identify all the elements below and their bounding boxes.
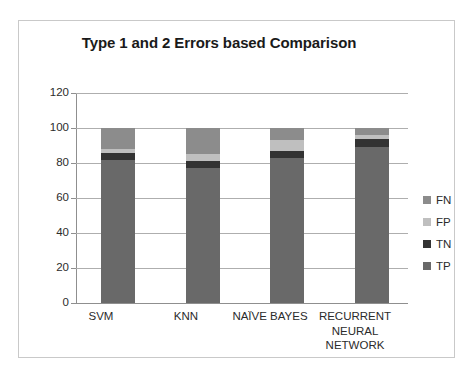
y-axis-tick-label-40: 40 — [25, 227, 69, 238]
bar-segment-tn — [355, 139, 389, 148]
bar-svm[interactable] — [101, 128, 135, 303]
bar-naive-bayes[interactable] — [270, 128, 304, 303]
x-axis-label-line: SVM — [53, 309, 149, 324]
chart-legend: FN FP TN TP — [423, 189, 451, 277]
x-axis-label-line: NAÏVE BAYES — [222, 309, 318, 324]
legend-label: FN — [436, 194, 451, 206]
bar-segment-fn — [101, 128, 135, 149]
legend-swatch-icon — [423, 218, 431, 226]
bar-segment-fn — [270, 128, 304, 140]
legend-item-fn[interactable]: FN — [423, 189, 451, 211]
bar-knn[interactable] — [186, 128, 220, 303]
y-axis-tick-label-120: 120 — [25, 87, 69, 98]
bar-segment-fp — [270, 140, 304, 151]
legend-item-fp[interactable]: FP — [423, 211, 451, 233]
legend-label: TN — [436, 238, 451, 250]
bar-segment-tp — [101, 160, 135, 304]
legend-swatch-icon — [423, 196, 431, 204]
legend-swatch-icon — [423, 262, 431, 270]
y-axis-tick-label-60: 60 — [25, 192, 69, 203]
x-axis-label-knn: KNN — [138, 309, 234, 324]
bar-segment-tn — [101, 153, 135, 160]
y-axis-tick-label-0: 0 — [25, 297, 69, 308]
x-axis-label-naive-bayes: NAÏVE BAYES — [222, 309, 318, 324]
x-axis-label-recurrent-neural-network: RECURRENT NEURAL NETWORK — [307, 309, 403, 353]
bar-segment-tp — [186, 168, 220, 303]
x-axis-label-svm: SVM — [53, 309, 149, 324]
bar-segment-fn — [355, 128, 389, 135]
bar-segment-tp — [270, 158, 304, 303]
x-axis-label-line: KNN — [138, 309, 234, 324]
bar-segment-fn — [186, 128, 220, 154]
x-axis-label-line: NEURAL — [307, 324, 403, 339]
y-axis-tick-label-80: 80 — [25, 157, 69, 168]
legend-item-tn[interactable]: TN — [423, 233, 451, 255]
x-axis-label-line: RECURRENT — [307, 309, 403, 324]
gridline-0-baseline — [76, 303, 408, 304]
legend-item-tp[interactable]: TP — [423, 255, 451, 277]
bar-segment-fp — [186, 154, 220, 161]
chart-frame: Type 1 and 2 Errors based Comparison 120… — [18, 20, 455, 358]
legend-swatch-icon — [423, 240, 431, 248]
gridline-120 — [76, 93, 408, 94]
legend-label: FP — [436, 216, 451, 228]
bar-recurrent-neural-network[interactable] — [355, 128, 389, 303]
legend-label: TP — [436, 260, 451, 272]
chart-title: Type 1 and 2 Errors based Comparison — [59, 33, 379, 52]
bar-segment-tn — [270, 151, 304, 158]
bar-segment-tn — [186, 161, 220, 168]
y-axis-tick-label-100: 100 — [25, 122, 69, 133]
x-axis-label-line: NETWORK — [307, 338, 403, 353]
plot-area — [76, 93, 408, 303]
bar-segment-tp — [355, 147, 389, 303]
y-axis-tick-label-20: 20 — [25, 262, 69, 273]
